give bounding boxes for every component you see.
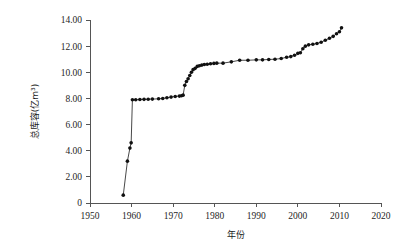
data-point [331,35,335,39]
data-point [165,96,169,100]
data-point [273,57,277,61]
data-point [230,60,234,64]
chart-background [0,0,401,247]
data-point [146,97,150,101]
data-point [238,58,242,62]
y-axis-tick-label: 0 [77,198,82,208]
data-point [121,193,125,197]
y-axis-tick-label: 12.00 [61,42,83,52]
data-point [307,43,311,47]
data-point [279,57,283,61]
x-axis-tick-label: 2000 [288,211,307,221]
data-point [311,42,315,46]
data-point [205,62,209,66]
y-axis-tick-label: 10.00 [61,68,83,78]
x-axis-tick-label: 1960 [122,211,141,221]
reservoir-capacity-line-chart: 02.004.006.008.0010.0012.0014.00 1950196… [0,0,401,247]
data-point [131,98,135,102]
data-point [299,51,303,55]
y-axis-tick-label: 14.00 [61,15,83,25]
x-axis-tick-label: 1990 [247,211,266,221]
data-point [151,97,155,101]
data-point [157,97,161,101]
data-point [173,95,177,99]
data-point [128,146,132,150]
data-point [134,98,138,102]
x-axis-tick-label: 1980 [205,211,224,221]
data-point [181,93,185,97]
data-point [142,98,146,102]
data-point [221,61,225,65]
data-point [186,77,190,81]
data-point [161,97,165,101]
data-point [138,98,142,102]
data-point [209,62,213,66]
data-point [246,58,250,62]
data-point [215,61,219,65]
chart-figure: 02.004.006.008.0010.0012.0014.00 1950196… [0,0,401,247]
data-point [319,40,323,44]
x-axis-title: 年份 [227,229,245,240]
data-point [289,55,293,59]
data-point [267,58,271,62]
y-axis-title: 总库容(亿m³) [29,84,40,139]
data-point [169,95,173,99]
data-point [301,47,305,51]
x-axis-tick-label: 2020 [372,211,391,221]
data-point [254,58,258,62]
y-axis-tick-label: 8.00 [65,94,82,104]
data-point [188,74,192,78]
y-axis-tick-label: 4.00 [65,146,82,156]
data-point [126,159,130,163]
y-axis-tick-label: 2.00 [65,172,82,182]
data-point [293,53,297,57]
data-point [315,42,319,46]
data-point [338,30,342,34]
data-point [285,55,289,59]
data-point [129,141,133,145]
y-axis-tick-label: 6.00 [65,120,82,130]
data-point [261,58,265,62]
data-point [304,44,308,48]
data-point [340,26,344,30]
data-point [328,37,332,41]
x-axis-tick-label: 2010 [330,211,349,221]
x-axis-tick-label: 1970 [164,211,183,221]
data-point [183,84,187,88]
data-point [323,38,327,42]
x-axis-tick-label: 1950 [81,211,100,221]
